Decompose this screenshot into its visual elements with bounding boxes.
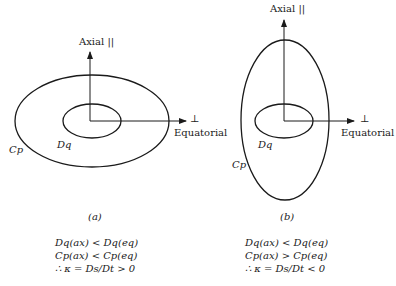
axial-label-a: Axial || bbox=[79, 37, 114, 47]
equation-line: Cp(ax) < Cp(eq) bbox=[55, 249, 138, 262]
equations-a: Dq(ax) < Dq(eq) Cp(ax) < Cp(eq) ∴ κ = Ds… bbox=[55, 236, 138, 275]
equatorial-label-a: Equatorial bbox=[174, 128, 227, 138]
caption-a: (a) bbox=[88, 212, 102, 222]
equations-b: Dq(ax) < Dq(eq) Cp(ax) > Cp(eq) ∴ κ = Ds… bbox=[245, 236, 328, 275]
equation-line: ∴ κ = Ds/Dt > 0 bbox=[55, 262, 138, 275]
equation-line: Dq(ax) < Dq(eq) bbox=[55, 236, 138, 249]
caption-b: (b) bbox=[280, 212, 294, 222]
equation-line: Dq(ax) < Dq(eq) bbox=[245, 236, 328, 249]
dq-label-a: Dq bbox=[57, 140, 71, 150]
cp-label-a: Cp bbox=[9, 145, 23, 155]
dq-label-b: Dq bbox=[258, 140, 272, 150]
perp-symbol-a: ⊥ bbox=[190, 114, 199, 124]
cp-label-b: Cp bbox=[232, 160, 246, 170]
equation-line: Cp(ax) > Cp(eq) bbox=[245, 249, 328, 262]
axial-label-b: Axial || bbox=[270, 4, 305, 14]
outer-ellipse-cp-b bbox=[241, 40, 329, 200]
equation-line: ∴ κ = Ds/Dt < 0 bbox=[245, 262, 328, 275]
equatorial-label-b: Equatorial bbox=[341, 128, 394, 138]
perp-symbol-b: ⊥ bbox=[360, 114, 369, 124]
